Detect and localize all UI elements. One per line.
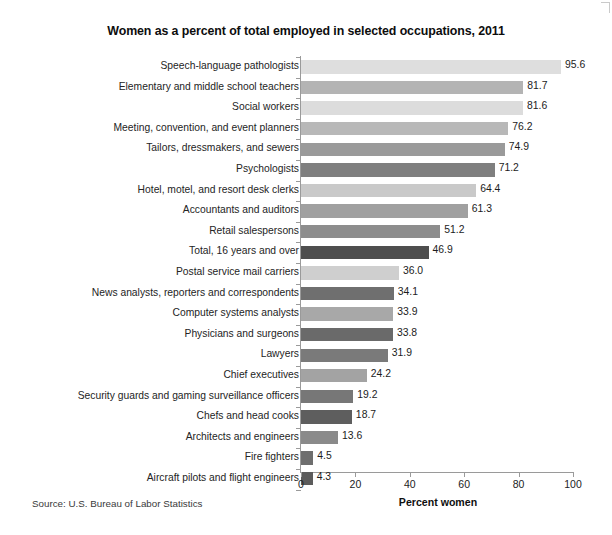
bar-category-label: Architects and engineers [186,430,299,443]
y-axis-tick [296,469,301,470]
bar [301,143,505,156]
bar-row: Elementary and middle school teachers81.… [0,78,612,99]
y-axis-tick [296,139,301,140]
bar-row: Computer systems analysts33.9 [0,304,612,325]
bar [301,328,393,341]
bar-value-label: 64.4 [476,182,500,195]
bar-value-label: 4.5 [313,449,331,462]
bar-category-label: Chefs and head cooks [197,409,299,422]
bar-fill [301,143,505,156]
x-axis-tick [410,472,411,477]
bar-row: Fire fighters4.5 [0,448,612,469]
bar-row: Hotel, motel, and resort desk clerks64.4 [0,181,612,202]
bar-value-label: 33.8 [393,326,417,339]
bar-category-label: Psychologists [236,162,299,175]
bar-fill [301,81,523,94]
bar-value-label: 51.2 [440,223,464,236]
bar-category-label: Chief executives [223,368,299,381]
bar [301,266,399,279]
bar-fill [301,101,523,114]
bar-fill [301,369,367,382]
y-axis-tick [296,366,301,367]
y-axis-tick [296,222,301,223]
y-axis-tick [296,428,301,429]
bar-row: Retail salespersons51.2 [0,222,612,243]
bar-row: Psychologists71.2 [0,160,612,181]
bar-value-label: 13.6 [338,429,362,442]
bar-value-label: 34.1 [394,285,418,298]
bar-fill [301,266,399,279]
bar-value-label: 36.0 [399,264,423,277]
bar-row: Chief executives24.2 [0,366,612,387]
bar-category-label: Tailors, dressmakers, and sewers [146,141,299,154]
x-axis-tick [355,472,356,477]
bar [301,307,393,320]
bar [301,390,353,403]
bar-fill [301,328,393,341]
bar-value-label: 33.9 [393,305,417,318]
x-axis-tick [464,472,465,477]
x-axis-tick-label: 60 [458,478,470,490]
bar-fill [301,451,313,464]
bar-row: Lawyers31.9 [0,345,612,366]
bar [301,60,561,73]
bar-value-label: 61.3 [468,202,492,215]
bar-value-label: 46.9 [429,243,453,256]
y-axis-tick [296,98,301,99]
x-axis-tick [301,472,302,477]
bar [301,451,313,464]
y-axis-tick [296,78,301,79]
bar-category-label: Elementary and middle school teachers [119,80,299,93]
bar-fill [301,122,508,135]
bar-value-label: 81.7 [523,79,547,92]
bar-value-label: 24.2 [367,367,391,380]
bar-fill [301,204,468,217]
x-axis-tick [573,472,574,477]
bar-fill [301,431,338,444]
bar-category-label: Postal service mail carriers [176,265,299,278]
x-axis-tick-label: 100 [564,478,582,490]
bar [301,225,440,238]
bar [301,204,468,217]
bar-row: Accountants and auditors61.3 [0,201,612,222]
bar [301,163,495,176]
bar [301,410,352,423]
bar-row: Postal service mail carriers36.0 [0,263,612,284]
bar-fill [301,246,429,259]
x-axis-tick-label: 80 [513,478,525,490]
bar-category-label: Security guards and gaming surveillance … [78,389,299,402]
bar-fill [301,184,476,197]
bar-row: Architects and engineers13.6 [0,428,612,449]
x-axis-tick-label: 0 [298,478,304,490]
bar-row: Total, 16 years and over46.9 [0,242,612,263]
y-axis-tick [296,181,301,182]
bar-category-label: Hotel, motel, and resort desk clerks [138,183,299,196]
y-axis-tick [296,345,301,346]
x-axis-ticks: 020406080100 [0,472,612,492]
bar-row: Tailors, dressmakers, and sewers74.9 [0,139,612,160]
bar [301,246,429,259]
bar-fill [301,60,561,73]
bar-category-label: Physicians and surgeons [185,327,299,340]
x-axis-tick-label: 20 [350,478,362,490]
bar-row: Social workers81.6 [0,98,612,119]
y-axis-tick [296,304,301,305]
bar-category-label: Computer systems analysts [173,306,299,319]
y-axis-tick [296,160,301,161]
bar [301,287,394,300]
bar [301,81,523,94]
bar-category-label: Meeting, convention, and event planners [114,121,299,134]
y-axis-tick [296,119,301,120]
x-axis-tick [519,472,520,477]
bar [301,431,338,444]
x-axis-tick-label: 40 [404,478,416,490]
bar-value-label: 71.2 [495,161,519,174]
y-axis-tick [296,284,301,285]
bar-category-label: Retail salespersons [209,224,299,237]
bar-row: Meeting, convention, and event planners7… [0,119,612,140]
y-axis-tick [296,387,301,388]
bar [301,101,523,114]
bar [301,184,476,197]
source-note: Source: U.S. Bureau of Labor Statistics [32,498,202,509]
chart-root: Women as a percent of total employed in … [0,0,612,535]
